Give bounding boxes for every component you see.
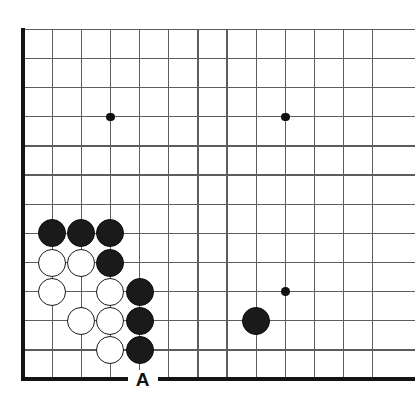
star-point-c4r4 xyxy=(106,113,115,122)
black-stone-c5r11[interactable] xyxy=(126,307,154,335)
grid-line-horizontal-2 xyxy=(23,58,415,59)
grid-line-horizontal-5 xyxy=(23,145,415,146)
white-stone-c3r11[interactable] xyxy=(67,307,95,335)
white-stone-c3r9[interactable] xyxy=(67,249,95,277)
grid-line-horizontal-10 xyxy=(23,291,415,292)
board-edge-left xyxy=(21,28,24,381)
grid-line-horizontal-1 xyxy=(23,29,415,30)
grid-line-horizontal-6 xyxy=(23,174,415,175)
black-stone-c9r11[interactable] xyxy=(242,307,270,335)
black-stone-c5r10[interactable] xyxy=(126,278,154,306)
grid-line-horizontal-3 xyxy=(23,87,415,88)
white-stone-c4r12[interactable] xyxy=(96,336,124,364)
black-stone-c5r12[interactable] xyxy=(126,336,154,364)
star-point-c10r4 xyxy=(281,113,290,122)
white-stone-c2r10[interactable] xyxy=(38,278,66,306)
grid-line-horizontal-7 xyxy=(23,204,415,205)
black-stone-c4r9[interactable] xyxy=(96,249,124,277)
board-edge-bottom xyxy=(21,377,415,380)
point-label-a: A xyxy=(128,370,158,389)
grid-line-horizontal-12 xyxy=(23,349,415,350)
black-stone-c2r8[interactable] xyxy=(38,219,66,247)
go-board-diagram: A xyxy=(0,0,415,417)
black-stone-c4r8[interactable] xyxy=(96,219,124,247)
white-stone-c4r11[interactable] xyxy=(96,307,124,335)
grid-line-horizontal-4 xyxy=(23,116,415,117)
white-stone-c2r9[interactable] xyxy=(38,249,66,277)
goban: A xyxy=(0,0,415,417)
black-stone-c3r8[interactable] xyxy=(67,219,95,247)
white-stone-c4r10[interactable] xyxy=(96,278,124,306)
star-point-c10r10 xyxy=(281,287,290,296)
